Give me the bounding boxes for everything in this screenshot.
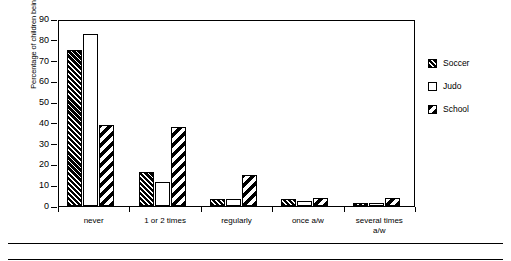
y-axis-tick <box>51 186 57 187</box>
y-axis-tick-label: 80 <box>23 36 49 45</box>
y-axis-tick-label: 10 <box>23 181 49 190</box>
y-axis-title-container: Percentage of children being bullied <box>0 0 22 210</box>
y-axis-tick <box>51 20 57 21</box>
legend-swatch-icon-soccer <box>428 59 437 68</box>
y-axis-tick-label: 50 <box>23 98 49 107</box>
bar-school-once-a-w <box>313 198 328 206</box>
legend-item-school[interactable]: School <box>428 102 508 116</box>
y-axis-tick-label: 20 <box>23 160 49 169</box>
bar-school-several-times-a-w <box>385 198 400 206</box>
x-axis-tick <box>129 207 130 212</box>
bar-judo-never <box>83 34 98 206</box>
bar-judo-once-a-w <box>297 201 312 206</box>
bar-school-regularly <box>242 175 257 206</box>
bar-soccer-regularly <box>210 199 225 206</box>
legend-item-soccer[interactable]: Soccer <box>428 56 508 70</box>
legend-swatch-icon-judo <box>428 82 437 91</box>
y-axis-tick-label: 90 <box>23 15 49 24</box>
y-axis-tick <box>51 207 57 208</box>
y-axis-tick <box>51 165 57 166</box>
legend-swatch-icon-school <box>428 105 437 114</box>
x-axis-category-label: several times a/w <box>334 216 424 235</box>
y-axis-tick <box>51 123 57 124</box>
divider-rule-top <box>8 243 503 244</box>
x-axis-tick <box>415 207 416 212</box>
bar-judo-regularly <box>226 199 241 206</box>
y-axis-tick <box>51 40 57 41</box>
y-axis-tick <box>51 82 57 83</box>
y-axis-tick-label: 30 <box>23 140 49 149</box>
bar-judo-several-times-a-w <box>369 203 384 206</box>
bar-judo-1-or-2-times <box>155 182 170 206</box>
x-axis-tick <box>201 207 202 212</box>
legend: SoccerJudoSchool <box>428 56 508 125</box>
legend-label: Soccer <box>443 59 469 68</box>
bar-school-1-or-2-times <box>171 127 186 206</box>
y-axis-tick <box>51 144 57 145</box>
legend-label: Judo <box>443 82 461 91</box>
x-axis-tick <box>58 207 59 212</box>
x-axis-tick <box>344 207 345 212</box>
bar-soccer-several-times-a-w <box>353 203 368 206</box>
y-axis-tick <box>51 61 57 62</box>
legend-label: School <box>443 105 469 114</box>
x-axis-tick <box>272 207 273 212</box>
y-axis-tick-label: 0 <box>23 202 49 211</box>
y-axis-tick-label: 70 <box>23 57 49 66</box>
y-axis-tick-label: 40 <box>23 119 49 128</box>
legend-item-judo[interactable]: Judo <box>428 79 508 93</box>
divider-rule-bottom <box>8 259 503 260</box>
bar-soccer-once-a-w <box>281 199 296 206</box>
bar-chart-figure: Percentage of children being bullied 010… <box>0 0 511 261</box>
bar-soccer-never <box>67 50 82 206</box>
y-axis-tick-label: 60 <box>23 77 49 86</box>
y-axis-tick <box>51 103 57 104</box>
bar-school-never <box>99 125 114 206</box>
bars-container <box>59 21 414 206</box>
plot-area <box>58 20 415 207</box>
bar-soccer-1-or-2-times <box>139 172 154 206</box>
